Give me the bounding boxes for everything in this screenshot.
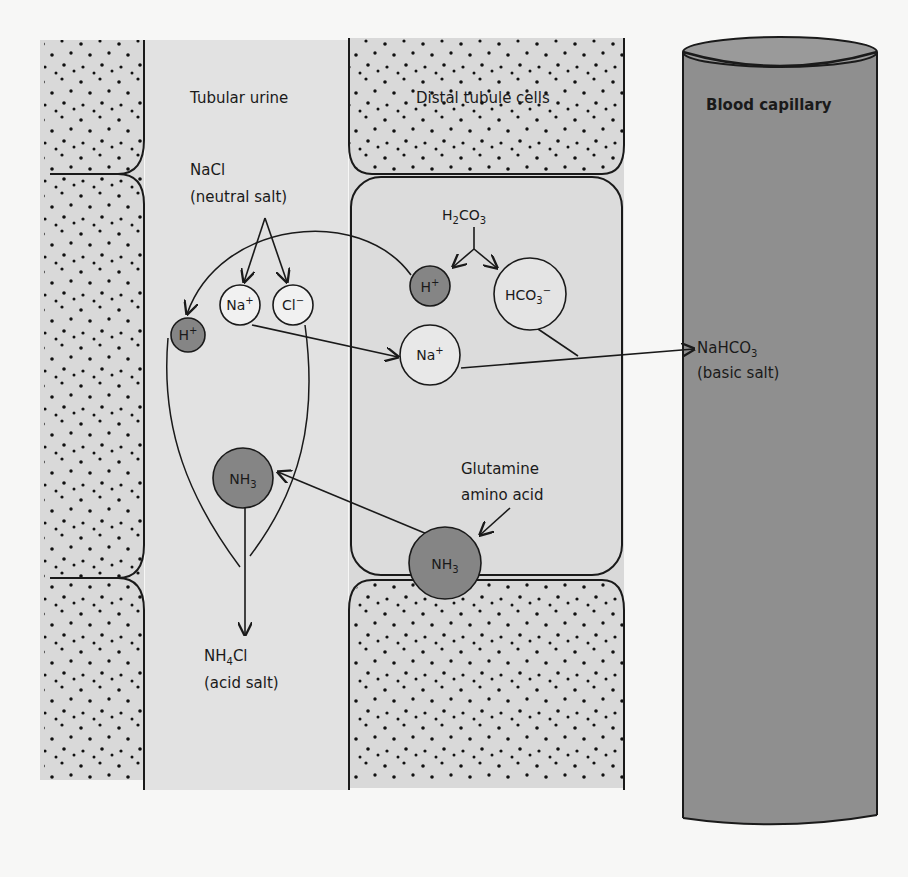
ion-na-urine: Na+	[220, 285, 260, 325]
ion-cl-urine: Cl−	[273, 285, 313, 325]
ion-h-cell: H+	[410, 266, 450, 306]
ion-h-urine: H+	[171, 318, 205, 352]
title-distal-tubule-cells: Distal tubule cells	[416, 89, 550, 107]
kidney-acid-base-diagram: Tubular urine Distal tubule cells Blood …	[0, 0, 908, 877]
ion-nh3-cell: NH3	[409, 527, 481, 599]
ion-hco3-cell: HCO3−	[494, 258, 566, 330]
ion-na-cell: Na+	[400, 325, 460, 385]
glutamine-label: Glutamine	[461, 460, 539, 478]
nacl-desc: (neutral salt)	[190, 188, 287, 206]
blood-capillary	[683, 37, 877, 824]
nh4cl-label: NH4Cl	[204, 647, 248, 667]
nahco3-label: NaHCO3	[697, 339, 757, 359]
nacl-label: NaCl	[190, 161, 225, 179]
nh4cl-desc: (acid salt)	[204, 674, 279, 692]
distal-tubule-cells	[349, 38, 624, 790]
nahco3-desc: (basic salt)	[697, 364, 779, 382]
ion-nh3-urine: NH3	[213, 448, 273, 508]
title-blood-capillary: Blood capillary	[706, 96, 832, 114]
title-tubular-urine: Tubular urine	[189, 89, 288, 107]
glutamine-desc: amino acid	[461, 486, 544, 504]
left-tubule-wall	[40, 40, 144, 790]
